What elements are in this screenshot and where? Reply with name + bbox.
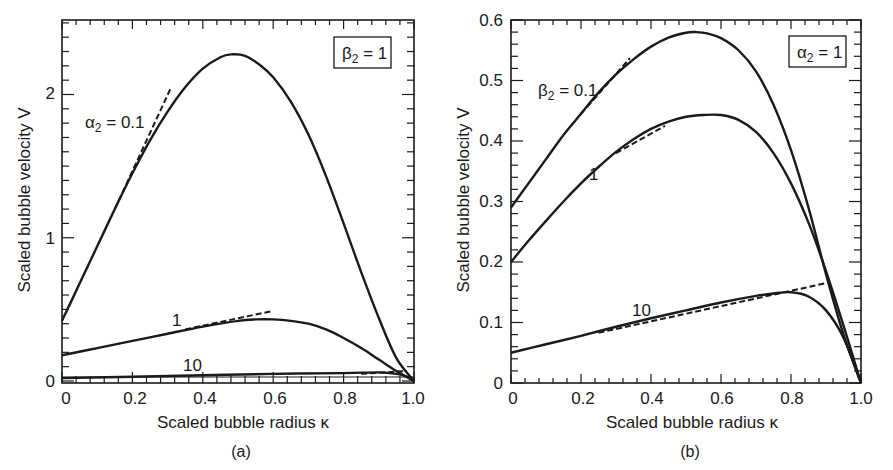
panel-b-ytick-label: 0.3	[479, 192, 503, 211]
panel-a-curves	[62, 54, 414, 381]
panel-a-x-axis-title: Scaled bubble radius κ	[157, 413, 330, 432]
panel-a-xtick-label: 0	[61, 389, 70, 408]
panel-b-curve-label-beta-1: 1	[589, 165, 598, 184]
panel-b-ytick-label: 0.4	[479, 131, 503, 150]
panel-b-caption: (b)	[680, 443, 700, 460]
panel-a-y-axis-title: Scaled bubble velocity V	[15, 107, 34, 293]
panel-b-y-axis-title: Scaled bubble velocity V	[454, 107, 473, 293]
panel-a-curve-label-alpha-0.1: α2 = 0.1	[85, 113, 145, 135]
panel-a-parameter-label: β2 = 1	[342, 44, 387, 66]
panel-a-xtick-label: 1.0	[401, 389, 425, 408]
panel-b-curve-label-beta-0.1: β2 = 0.1	[538, 81, 597, 103]
data-curve	[511, 292, 861, 383]
data-curve	[62, 54, 414, 381]
panel-b-xtick-label: 0.4	[640, 389, 664, 408]
panel-b-xtick-label: 0.8	[780, 389, 804, 408]
data-curve	[511, 115, 861, 383]
panel-b-xtick-label: 0.2	[571, 389, 595, 408]
panel-b-xtick-label: 0	[508, 389, 517, 408]
panel-a-ytick-label: 2	[46, 84, 55, 103]
asymptote-line	[616, 126, 665, 153]
asymptote-line	[115, 87, 171, 209]
panel-a-xtick-label: 0.8	[333, 389, 357, 408]
panel-a-ytick-label: 0	[46, 372, 55, 391]
panel-b-xtick-label: 0.6	[710, 389, 734, 408]
panel-a-ticks	[62, 20, 414, 383]
panel-b-ytick-label: 0.1	[479, 313, 503, 332]
panel-a-xtick-label: 0.2	[123, 389, 147, 408]
panel-a-chart: 0 1 2 0 0.2 0.4 0.6 0.8 1.0 Scaled bubbl…	[15, 20, 425, 460]
panel-a-caption: (a)	[231, 443, 251, 460]
panel-b-ytick-label: 0.5	[479, 71, 503, 90]
panel-b-chart: 0 0.1 0.2 0.3 0.4 0.5 0.6 0 0.2 0.4 0.6 …	[454, 11, 873, 460]
figure: 0 1 2 0 0.2 0.4 0.6 0.8 1.0 Scaled bubbl…	[0, 0, 893, 470]
panel-b-ytick-label: 0	[494, 374, 503, 393]
panel-a-xtick-label: 0.6	[263, 389, 287, 408]
panel-a-curve-label-alpha-10: 10	[183, 356, 202, 375]
panel-b-x-axis-title: Scaled bubble radius κ	[606, 413, 779, 432]
panel-b-xtick-label: 1.0	[849, 389, 873, 408]
panel-a-xtick-label: 0.4	[193, 389, 217, 408]
panel-a-plot-frame	[62, 20, 414, 383]
panel-b-parameter-label: α2 = 1	[797, 43, 842, 65]
panel-b-curve-label-beta-10: 10	[632, 301, 651, 320]
panel-b-ytick-label: 0.2	[479, 252, 503, 271]
panel-a-curve-label-alpha-1: 1	[172, 311, 181, 330]
panel-b-ytick-label: 0.6	[479, 11, 503, 30]
panel-a-ytick-label: 1	[46, 229, 55, 248]
